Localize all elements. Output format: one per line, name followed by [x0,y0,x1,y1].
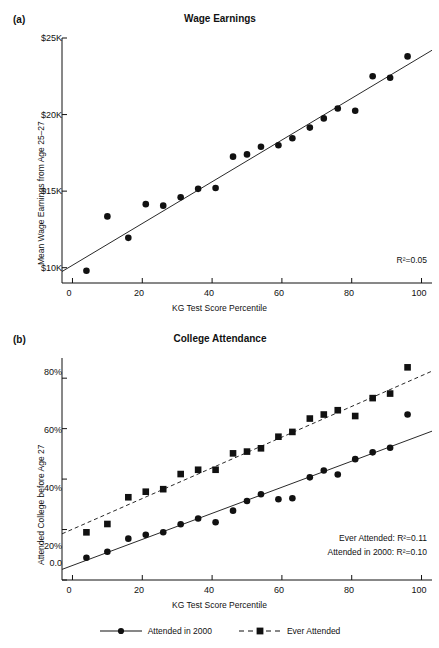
legend-swatch-solid-circle [99,625,143,637]
panel-college-attendance: (b) College Attendance Attended College … [0,320,439,620]
figure-root: (a) Wage Earnings Mean Wage Earnings fro… [0,0,439,648]
legend-item-ever-attended[interactable]: Ever Attended [238,625,340,637]
panel-wage-earnings: (a) Wage Earnings Mean Wage Earnings fro… [0,0,439,320]
legend-swatch-dashed-square [238,625,282,637]
legend-label-attended-in-2000: Attended in 2000 [148,626,212,636]
legend-label-ever-attended: Ever Attended [287,626,340,636]
figure-legend: Attended in 2000 Ever Attended [0,620,439,642]
panel-b-plot-area [0,320,439,620]
panel-a-plot-area [0,0,439,320]
legend-item-attended-in-2000[interactable]: Attended in 2000 [99,625,212,637]
